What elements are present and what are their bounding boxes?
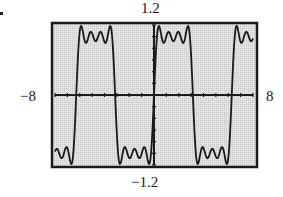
graph-screen [0, 0, 283, 197]
